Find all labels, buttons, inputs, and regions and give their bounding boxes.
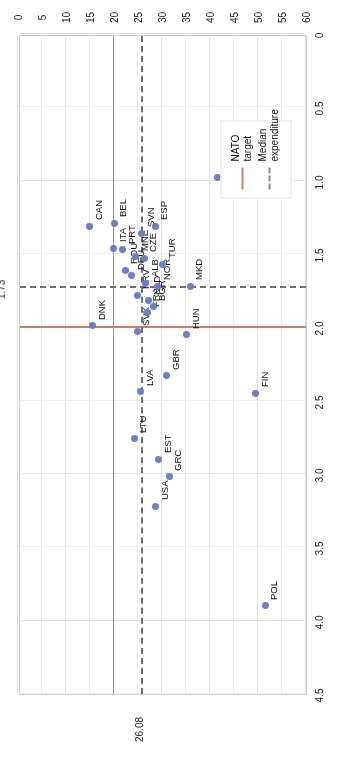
defence-axis-tick: 3.5 [315,540,326,558]
data-point[interactable] [252,390,259,397]
gridline-horizontal [20,473,306,474]
data-point[interactable] [150,303,157,310]
legend-item[interactable]: Median expenditure [258,130,282,190]
equipment-axis-tick: 10 [62,9,73,27]
gridline-horizontal [20,693,306,694]
data-point-label: MKD [194,259,204,280]
data-point[interactable] [187,283,194,290]
defence-axis-tick: 0.5 [315,100,326,118]
equipment-axis-tick: 35 [182,9,193,27]
gridline-horizontal [20,400,306,401]
median-defence-annotation: 1.73 [0,280,7,299]
data-point[interactable] [142,280,149,287]
data-point[interactable] [134,328,141,335]
data-point[interactable] [152,503,159,510]
equipment-axis-tick: 40 [206,9,217,27]
gridline-horizontal [20,33,306,34]
data-point[interactable] [87,223,94,230]
defence-axis-tick: 4.0 [315,613,326,631]
data-point[interactable] [144,309,151,316]
data-point-label: FIN [260,372,270,387]
equipment-axis-tick: 0 [14,9,25,27]
data-point-label: LTU [138,416,148,433]
data-point-label: PRT [127,225,137,244]
data-point[interactable] [89,322,96,329]
gridline-vertical [137,36,138,694]
data-point-label: BEL [118,199,128,217]
solid-line-icon [242,168,244,190]
equipment-axis-tick: 60 [302,9,313,27]
data-point-label: CAN [94,200,104,220]
data-point[interactable] [137,388,144,395]
gridline-horizontal [20,546,306,547]
nato-target-line-horizontal [20,326,306,328]
equipment-axis-tick: 55 [278,9,289,27]
gridline-vertical [185,36,186,694]
legend-item-label: NATO target [231,130,255,162]
defence-axis-tick: 1.5 [315,247,326,265]
gridline-vertical [161,36,162,694]
data-point-label: HUN [191,308,201,329]
legend-item-label: Median expenditure [258,109,282,161]
legend-item[interactable]: NATO target [231,130,255,190]
dashed-line-icon [269,168,271,190]
data-point-label: USA [160,481,170,501]
data-point-label: TUR [167,239,177,259]
data-point[interactable] [131,435,138,442]
gridline-vertical [305,36,306,694]
data-point-label: LVA [145,369,155,386]
defence-axis-tick: 0 [315,27,326,45]
data-point-label: GBR [171,349,181,370]
data-point[interactable] [155,456,162,463]
defence-axis-tick: 1.0 [315,173,326,191]
nato-target-line-vertical [113,36,115,694]
data-point-label: ITA [118,228,128,242]
gridline-horizontal [20,253,306,254]
chart-legend: NATO targetMedian expenditure [221,121,292,199]
data-point[interactable] [141,255,148,262]
data-point[interactable] [183,331,190,338]
data-point-label: EST [163,435,173,453]
equipment-axis-tick: 5 [38,9,49,27]
defence-axis-tick: 2.5 [315,393,326,411]
data-point-label: POL [269,581,279,600]
defence-axis-tick: 2.0 [315,320,326,338]
data-point[interactable] [134,292,141,299]
data-point-label: ESP [159,201,169,220]
data-point[interactable] [262,603,269,610]
data-point[interactable] [111,220,118,227]
equipment-axis-tick: 25 [134,9,145,27]
equipment-axis-tick: 20 [110,9,121,27]
data-point[interactable] [154,283,161,290]
data-point[interactable] [128,273,135,280]
chart-figure: POLLUXFINGRCUSAESTLTULVAGBRHUNSVKDNKFRAB… [0,0,340,765]
defence-axis-tick: 3.0 [315,467,326,485]
equipment-axis-tick: 30 [158,9,169,27]
gridline-vertical [65,36,66,694]
gridline-horizontal [20,106,306,107]
equipment-axis-tick: 50 [254,9,265,27]
gridline-vertical [209,36,210,694]
data-point[interactable] [163,372,170,379]
gridline-vertical [41,36,42,694]
equipment-axis-tick: 45 [230,9,241,27]
defence-axis-tick: 4.5 [315,687,326,705]
rotated-figure-wrapper: POLLUXFINGRCUSAESTLTULVAGBRHUNSVKDNKFRAB… [0,0,340,765]
data-point[interactable] [122,267,129,274]
median-expenditure-line-vertical [141,36,143,694]
data-point-label: ALB [150,259,160,277]
equipment-axis-tick: 15 [86,9,97,27]
data-point[interactable] [111,245,118,252]
gridline-vertical [89,36,90,694]
gridline-horizontal [20,620,306,621]
data-point-label: GRC [173,450,183,471]
median-equipment-annotation: 26.08 [134,717,145,742]
gridline-vertical [17,36,18,694]
data-point-label: DNK [97,300,107,320]
data-point[interactable] [152,223,159,230]
